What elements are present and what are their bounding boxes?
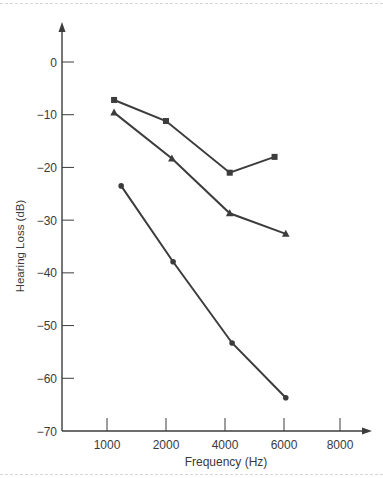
- x-tick-label: 1000: [94, 438, 121, 452]
- y-tick-label: −20: [37, 161, 58, 175]
- series-square: [111, 97, 277, 176]
- y-axis-label: Hearing Loss (dB): [14, 199, 26, 292]
- series-circle: [118, 183, 288, 401]
- square-marker: [111, 97, 117, 103]
- series-triangle: [110, 109, 289, 237]
- y-ticks: 0−10−20−30−40−50−60−70: [37, 56, 74, 439]
- x-ticks: 10002000400060008000: [94, 418, 354, 452]
- circle-marker: [118, 183, 124, 189]
- square-marker: [227, 170, 233, 176]
- x-tick-label: 6000: [271, 438, 298, 452]
- y-tick-label: −10: [37, 108, 58, 122]
- series-line-triangle: [114, 113, 286, 234]
- circle-marker: [283, 395, 289, 401]
- y-tick-label: −50: [37, 319, 58, 333]
- triangle-marker: [110, 109, 118, 116]
- x-axis-label: Frequency (Hz): [185, 455, 268, 469]
- circle-marker: [170, 259, 176, 265]
- y-tick-label: 0: [50, 56, 57, 70]
- y-tick-label: −70: [37, 425, 58, 439]
- y-tick-label: −30: [37, 214, 58, 228]
- x-tick-label: 8000: [327, 438, 354, 452]
- hearing-loss-chart: 0−10−20−30−40−50−60−70 10002000400060008…: [0, 0, 383, 478]
- series-group: [110, 97, 289, 401]
- series-line-circle: [121, 186, 286, 398]
- x-tick-label: 4000: [212, 438, 239, 452]
- y-tick-label: −60: [37, 372, 58, 386]
- circle-marker: [229, 340, 235, 346]
- axes: [59, 22, 373, 435]
- series-line-square: [114, 100, 274, 173]
- x-axis-arrow-icon: [362, 428, 372, 435]
- square-marker: [272, 154, 278, 160]
- y-tick-label: −40: [37, 266, 58, 280]
- y-axis-arrow-icon: [59, 22, 66, 32]
- square-marker: [163, 118, 169, 124]
- x-tick-label: 2000: [153, 438, 180, 452]
